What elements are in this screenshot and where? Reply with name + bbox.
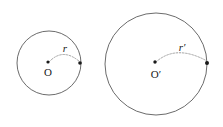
small-circle-radius-label: r	[63, 42, 68, 54]
large-circle-radius-arc	[156, 53, 207, 62]
small-circle-edge-dot	[78, 61, 82, 65]
small-circle-center-label: O	[44, 66, 52, 78]
large-circle-group: O′ r′	[105, 13, 209, 115]
large-circle-edge-dot	[205, 61, 209, 65]
small-circle-group: O r	[17, 31, 82, 95]
geometry-figure: O r O′ r′	[0, 0, 223, 127]
large-circle-radius-label: r′	[179, 41, 186, 53]
large-circle-center-label: O′	[151, 68, 161, 80]
small-circle-center-dot	[46, 60, 49, 63]
large-circle-outline	[105, 13, 207, 115]
circles-diagram-canvas: O r O′ r′	[0, 0, 223, 127]
small-circle-radius-arc	[49, 55, 80, 63]
large-circle-center-dot	[153, 60, 156, 63]
